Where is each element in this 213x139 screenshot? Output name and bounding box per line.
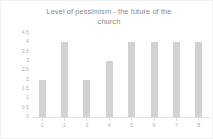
x-axis-tickmark [176, 118, 177, 121]
x-axis-slot: 4 [98, 118, 120, 134]
chart-container: Level of pessimism - the future of the c… [0, 0, 213, 139]
y-axis-tick-label: 1.5 [7, 86, 29, 91]
x-axis-tick-label: 4 [108, 123, 111, 128]
y-axis-tick-label: 1 [7, 96, 29, 101]
x-axis-slot: 1 [31, 118, 53, 134]
bar[interactable] [39, 80, 46, 117]
x-axis: 12345678 [31, 118, 210, 134]
bar-series [31, 33, 210, 117]
x-axis-tickmark [64, 118, 65, 121]
x-axis-tickmark [86, 118, 87, 121]
x-axis-tick-label: 7 [175, 123, 178, 128]
y-axis-tick-label: 3 [7, 58, 29, 63]
bar-slot [121, 33, 143, 117]
bar[interactable] [128, 42, 135, 117]
y-axis-tick-label: 3.5 [7, 49, 29, 54]
x-axis-tick-label: 5 [130, 123, 133, 128]
x-axis-tickmark [131, 118, 132, 121]
x-axis-tickmark [198, 118, 199, 121]
y-axis-tick-label: 0 [7, 114, 29, 119]
x-axis-slot: 8 [188, 118, 210, 134]
plot-region: 4.543.532.521.510.50 12345678 [1, 31, 213, 139]
x-axis-tickmark [154, 118, 155, 121]
y-axis-tick-label: 0.5 [7, 105, 29, 110]
y-axis-tick-label: 2 [7, 77, 29, 82]
x-axis-tick-label: 8 [197, 123, 200, 128]
bar-slot [188, 33, 210, 117]
bar[interactable] [83, 80, 90, 117]
x-axis-tick-label: 6 [153, 123, 156, 128]
x-axis-tick-label: 3 [85, 123, 88, 128]
bar-slot [76, 33, 98, 117]
y-axis-tick-label: 2.5 [7, 68, 29, 73]
x-axis-slot: 7 [165, 118, 187, 134]
bar-slot [31, 33, 53, 117]
x-axis-slot: 3 [76, 118, 98, 134]
y-axis-tick-label: 4 [7, 40, 29, 45]
x-axis-slot: 6 [143, 118, 165, 134]
x-axis-tickmark [109, 118, 110, 121]
bar[interactable] [106, 61, 113, 117]
chart-title: Level of pessimism - the future of the c… [19, 7, 199, 27]
x-axis-slot: 2 [53, 118, 75, 134]
bar[interactable] [173, 42, 180, 117]
bar-slot [98, 33, 120, 117]
bar-slot [143, 33, 165, 117]
bar[interactable] [151, 42, 158, 117]
bar[interactable] [195, 42, 202, 117]
bar-slot [53, 33, 75, 117]
x-axis-tick-label: 1 [41, 123, 44, 128]
x-axis-slot: 5 [121, 118, 143, 134]
x-axis-tick-label: 2 [63, 123, 66, 128]
x-axis-tickmark [42, 118, 43, 121]
bar-slot [165, 33, 187, 117]
y-axis: 4.543.532.521.510.50 [7, 33, 29, 117]
y-axis-tick-label: 4.5 [7, 30, 29, 35]
bar[interactable] [61, 42, 68, 117]
plot-area [31, 33, 210, 117]
